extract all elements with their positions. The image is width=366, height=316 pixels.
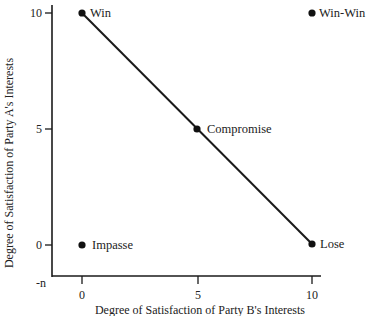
label-compromise: Compromise: [207, 122, 272, 136]
y-tick-label-10: 10: [30, 6, 42, 20]
y-axis-title: Degree of Satisfaction of Party A's Inte…: [2, 58, 16, 268]
point-lose: [308, 240, 315, 247]
point-impasse: [78, 241, 85, 248]
label-impasse: Impasse: [92, 238, 133, 252]
x-tick-label-10: 10: [306, 288, 318, 302]
point-win: [78, 9, 85, 16]
label-win-win: Win-Win: [319, 6, 366, 20]
x-tick-label-5: 5: [195, 288, 201, 302]
x-tick-label-0: 0: [79, 288, 85, 302]
label-win: Win: [90, 6, 112, 20]
label-lose: Lose: [320, 237, 345, 251]
x-axis-title: Degree of Satisfaction of Party B's Inte…: [95, 303, 305, 316]
point-win-win: [308, 9, 315, 16]
point-compromise: [193, 125, 200, 132]
y-tick-label-5: 5: [36, 122, 42, 136]
y-tick-label-neg-n: -n: [36, 276, 46, 290]
y-tick-label-0: 0: [36, 238, 42, 252]
chart-canvas: 10 5 0 -n 0 5 10 Degree of Satisfaction …: [0, 0, 366, 316]
